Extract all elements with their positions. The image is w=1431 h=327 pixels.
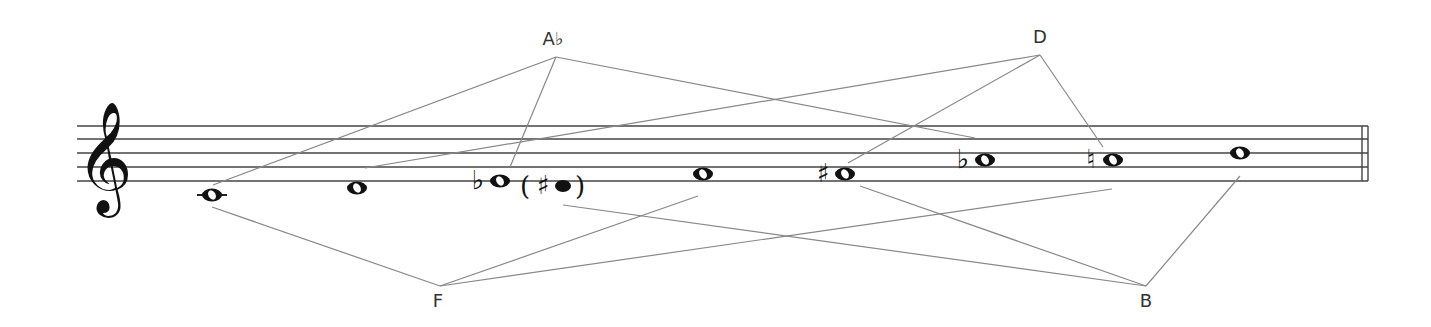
connector-line-f	[440, 189, 1112, 286]
connector-line-d	[1040, 55, 1103, 147]
accidental-icon: ♭	[472, 165, 484, 195]
accidental-icon: ♯	[537, 170, 550, 200]
accidental-icon: ♯	[817, 158, 830, 188]
accidental-icon: ♭	[957, 144, 969, 174]
connector-line-b	[1146, 176, 1240, 286]
note-eb4: ♭	[472, 165, 510, 195]
svg-text:(: (	[520, 171, 530, 201]
staff-canvas: 𝄞 ♭♯()♯♭♮	[0, 0, 1431, 327]
connector-line-b	[563, 205, 1146, 286]
connector-line-b	[860, 186, 1146, 286]
note-c4	[197, 189, 227, 202]
note-ab4: ♭	[957, 144, 995, 174]
connector-line-f	[212, 207, 440, 286]
note-f4	[693, 168, 713, 181]
hub-label-b: B	[1140, 290, 1152, 311]
hub-label-f: F	[433, 290, 443, 311]
connector-line-f	[440, 196, 698, 286]
music-diagram: 𝄞 ♭♯()♯♭♮ A♭DFB	[0, 0, 1431, 327]
treble-clef-icon: 𝄞	[76, 101, 133, 218]
note-fsharp4: ♯()	[520, 170, 585, 201]
svg-text:𝄞: 𝄞	[76, 101, 133, 218]
staff-lines	[77, 126, 1368, 181]
note-b4	[1230, 147, 1250, 160]
svg-text:): )	[575, 171, 585, 201]
connector-line-ab	[213, 57, 556, 185]
hub-label-d: D	[1033, 26, 1047, 47]
accidental-icon: ♮	[1086, 144, 1095, 174]
connector-line-ab	[510, 57, 556, 167]
note-a4: ♮	[1086, 144, 1123, 174]
hub-label-ab: A♭	[543, 28, 564, 49]
note-d4	[347, 182, 367, 195]
